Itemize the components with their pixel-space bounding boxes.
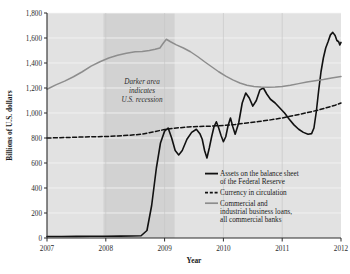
y-tick-label: 1,600 [26,35,43,43]
line-chart-svg: 02004006008001,0001,2001,4001,6001,80020… [0,0,350,274]
x-tick-label: 2007 [40,245,55,253]
y-tick-label: 1,800 [26,10,43,18]
y-tick-label: 1,200 [26,85,43,93]
recession-annotation-line: indicates [129,87,155,95]
x-tick-label: 2008 [99,245,114,253]
x-axis-title: Year [187,256,202,265]
recession-band [103,13,174,238]
y-tick-label: 800 [31,135,42,143]
legend-label-line: of the Federal Reserve [220,178,285,186]
x-tick-label: 2011 [275,245,290,253]
x-tick-label: 2012 [334,245,349,253]
x-tick-label: 2009 [157,245,172,253]
recession-annotation-line: Darker area [123,78,160,86]
y-tick-label: 1,000 [26,110,43,118]
y-tick-label: 600 [31,160,42,168]
legend-label-line: all commercial banks [220,216,282,224]
legend-label-line: Commercial and [220,200,268,208]
y-tick-label: 200 [31,210,42,218]
x-tick-label: 2010 [216,245,231,253]
plot-background [47,13,341,238]
legend-label-line: Assets on the balance sheet [220,170,299,178]
y-tick-label: 1,400 [26,60,43,68]
legend-label-line: Currency in circulation [220,189,287,197]
y-tick-label: 400 [31,185,42,193]
chart-figure: 02004006008001,0001,2001,4001,6001,80020… [0,0,350,274]
recession-annotation-line: U.S. recession [121,96,162,104]
y-axis-title: Billions of U.S. dollars [5,90,14,161]
y-tick-label: 0 [38,235,42,243]
legend-label-line: industrial business loans, [220,208,292,216]
